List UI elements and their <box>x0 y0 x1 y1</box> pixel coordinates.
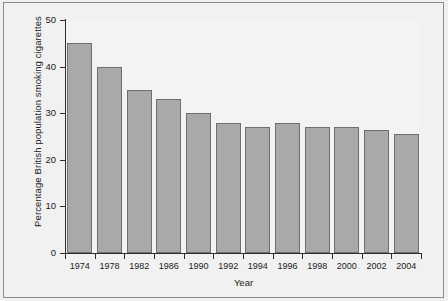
bar <box>305 127 330 253</box>
bar <box>97 67 122 253</box>
y-tick-label: 40 <box>16 62 56 72</box>
x-tick-mark <box>95 254 96 259</box>
x-tick-mark <box>213 254 214 259</box>
x-tick-label: 2004 <box>386 262 426 271</box>
y-tick-mark <box>60 113 65 114</box>
y-tick-label: 0 <box>16 248 56 258</box>
x-tick-mark <box>273 254 274 259</box>
x-tick-mark <box>124 254 125 259</box>
x-tick-mark <box>154 254 155 259</box>
y-tick-label: 50 <box>16 15 56 25</box>
x-tick-mark <box>421 254 422 259</box>
bar <box>156 99 181 253</box>
figure: Percentage British population smoking ci… <box>0 0 448 301</box>
y-tick-label: 10 <box>16 201 56 211</box>
y-tick-mark <box>60 20 65 21</box>
x-tick-mark <box>362 254 363 259</box>
bar <box>216 123 241 253</box>
y-tick-label: 20 <box>16 155 56 165</box>
x-tick-mark <box>243 254 244 259</box>
x-tick-mark <box>332 254 333 259</box>
x-tick-mark <box>65 254 66 259</box>
plot-area <box>65 20 421 253</box>
x-tick-mark <box>391 254 392 259</box>
bar <box>275 123 300 253</box>
bar <box>67 43 92 253</box>
y-tick-mark <box>60 67 65 68</box>
y-tick-label: 30 <box>16 108 56 118</box>
x-tick-mark <box>184 254 185 259</box>
x-axis-title: Year <box>65 277 422 288</box>
y-tick-mark <box>60 160 65 161</box>
bar <box>364 130 389 253</box>
y-tick-mark <box>60 206 65 207</box>
bar <box>245 127 270 253</box>
bar <box>127 90 152 253</box>
bar <box>334 127 359 253</box>
bar <box>394 134 419 253</box>
bar <box>186 113 211 253</box>
y-axis-line <box>65 19 66 254</box>
x-tick-mark <box>302 254 303 259</box>
